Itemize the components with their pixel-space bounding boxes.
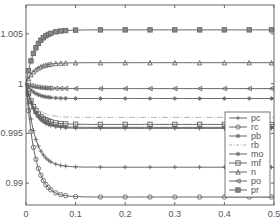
square-marker [236,188,240,192]
square-marker [54,30,58,34]
x-tick-label: 0.2 [119,209,132,219]
square-marker [73,28,77,32]
square-marker [173,28,177,32]
x-tick-label: 0.1 [69,209,82,219]
square-marker [26,68,30,72]
series-line-n [26,63,274,84]
y-tick-label: 1 [18,79,23,89]
x-tick-label: 0 [23,209,28,219]
square-marker [148,28,152,32]
square-marker [222,28,226,32]
square-marker [247,28,251,32]
line-plot: 00.10.20.30.40.50.990.99511.005pcrcpbrbm… [0,0,280,221]
series-line-pr [26,30,274,84]
square-marker [63,28,67,32]
y-tick-label: 1.005 [0,29,23,39]
square-marker [49,31,53,35]
x-tick-label: 0.4 [218,209,231,219]
square-marker [98,28,102,32]
square-marker [269,28,273,32]
square-marker [34,46,38,50]
y-tick-label: 0.995 [0,128,23,138]
square-marker [197,28,201,32]
square-marker [31,51,35,55]
y-tick-label: 0.99 [5,178,23,188]
chart: 00.10.20.30.40.50.990.99511.005pcrcpbrbm… [0,0,280,221]
square-marker [59,29,63,33]
square-marker [123,28,127,32]
x-tick-label: 0.3 [169,209,182,219]
square-marker [29,59,33,63]
x-tick-label: 0.5 [268,209,280,219]
legend-label-pr: pr [251,185,259,195]
